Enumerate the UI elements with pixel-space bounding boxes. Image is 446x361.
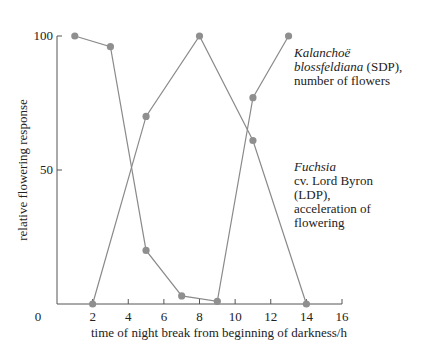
series-line-0: [75, 36, 289, 301]
kalanchoe-line3: number of flowers: [294, 74, 402, 88]
x-tick-label: 14: [300, 309, 314, 324]
data-point-marker: [249, 94, 256, 101]
x-tick-label: 10: [229, 309, 242, 324]
data-point-marker: [142, 247, 149, 254]
x-axis-label: time of night break from beginning of da…: [89, 326, 349, 340]
data-point-marker: [71, 32, 78, 39]
x-tick-label: 6: [161, 309, 168, 324]
data-point-marker: [89, 300, 96, 307]
data-point-marker: [178, 292, 185, 299]
data-point-marker: [142, 113, 149, 120]
y-axis-label: relative flowering response: [16, 95, 30, 245]
kalanchoe-annotation: Kalanchoë blossfeldiana (SDP), number of…: [294, 46, 402, 88]
series-layer: [71, 32, 310, 307]
fuchsia-annotation: Fuchsia cv. Lord Byron (LDP), accelerati…: [294, 160, 373, 230]
x-tick-label: 8: [196, 309, 203, 324]
data-point-marker: [214, 298, 221, 305]
kalanchoe-line2: blossfeldiana (SDP),: [294, 60, 402, 74]
y-tick-label: 50: [40, 162, 53, 177]
data-point-marker: [285, 32, 292, 39]
fuchsia-species: Fuchsia: [294, 160, 373, 174]
x-tick-label: 4: [125, 309, 132, 324]
fuchsia-line5: flowering: [294, 216, 373, 230]
fuchsia-line3: (LDP),: [294, 188, 373, 202]
y-tick-label: 100: [34, 28, 54, 43]
data-point-marker: [303, 300, 310, 307]
fuchsia-line4: acceleration of: [294, 202, 373, 216]
data-point-marker: [196, 32, 203, 39]
x-tick-label: 0: [35, 309, 42, 324]
series-line-1: [93, 36, 307, 304]
x-tick-label: 12: [264, 309, 277, 324]
fuchsia-line2: cv. Lord Byron: [294, 174, 373, 188]
x-tick-label: 2: [89, 309, 96, 324]
data-point-marker: [249, 137, 256, 144]
x-tick-label: 16: [336, 309, 350, 324]
data-point-marker: [107, 43, 114, 50]
kalanchoe-species: Kalanchoë: [294, 46, 402, 60]
